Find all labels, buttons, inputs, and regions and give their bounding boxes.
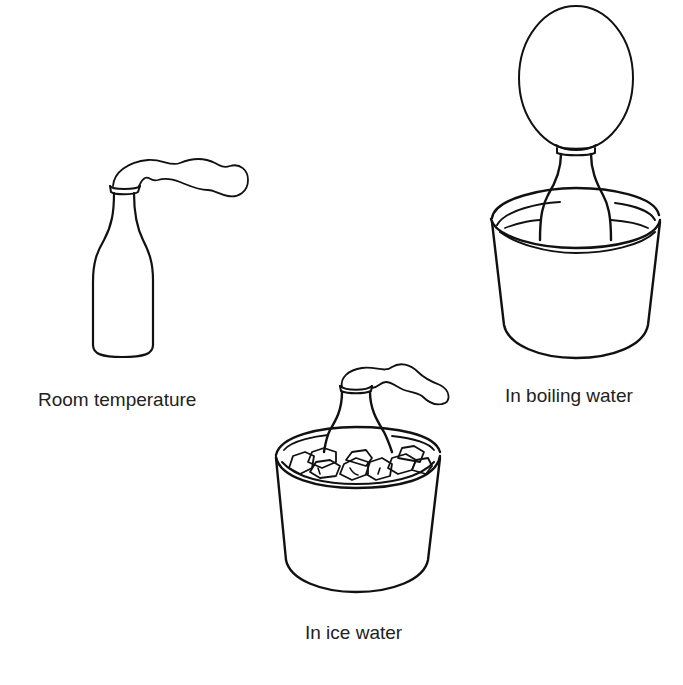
ice-water-setup: [276, 364, 449, 592]
boiling-water-setup: [491, 6, 660, 358]
diagram-canvas: [0, 0, 683, 685]
label-boiling-water: In boiling water: [505, 385, 633, 407]
label-ice-water: In ice water: [305, 622, 402, 644]
room-temperature-bottle: [93, 159, 248, 357]
label-room-temperature: Room temperature: [38, 389, 196, 411]
ice-cubes: [289, 446, 432, 480]
